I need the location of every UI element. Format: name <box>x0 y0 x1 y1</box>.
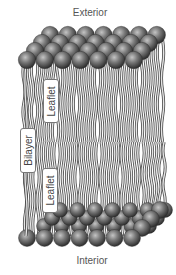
top-head-groups <box>18 26 165 68</box>
leaflet-bottom-label-box: Leaflet <box>42 168 58 213</box>
interior-label: Interior <box>42 255 142 266</box>
leaflet-bottom-label: Leaflet <box>45 175 56 205</box>
leaflet-top-label: Leaflet <box>46 86 57 116</box>
leaflet-top-label-box: Leaflet <box>43 79 59 123</box>
bilayer-label-box: Bilayer <box>20 128 36 173</box>
bilayer-label: Bilayer <box>23 135 34 166</box>
